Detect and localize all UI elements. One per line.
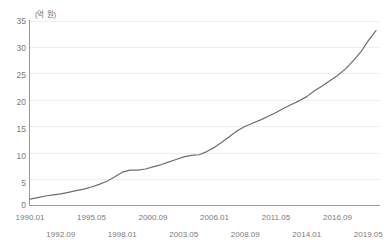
x-tick-label: 1998.01 xyxy=(108,231,137,239)
x-tick-label: 2000.09 xyxy=(139,214,168,222)
x-tick-label: 2008.09 xyxy=(231,231,260,239)
x-tick-label: 1992.09 xyxy=(46,231,75,239)
gridlines xyxy=(30,22,380,180)
line-chart: 35 30 25 20 15 10 5 0 (억 원) 1990.011992.… xyxy=(0,0,384,246)
x-tick-label: 2003.05 xyxy=(169,231,198,239)
x-tick-label: 2006.01 xyxy=(200,214,229,222)
x-tick-label: 1990.01 xyxy=(16,214,45,222)
series-line xyxy=(30,31,376,200)
x-tick-label: 2014.01 xyxy=(292,231,321,239)
x-tick-label: 1995.05 xyxy=(77,214,106,222)
x-tick-label: 2019.05 xyxy=(354,231,383,239)
x-tick-label: 2011.05 xyxy=(262,214,290,222)
plot-area xyxy=(0,0,384,246)
x-tick-label: 2016.09 xyxy=(323,214,352,222)
